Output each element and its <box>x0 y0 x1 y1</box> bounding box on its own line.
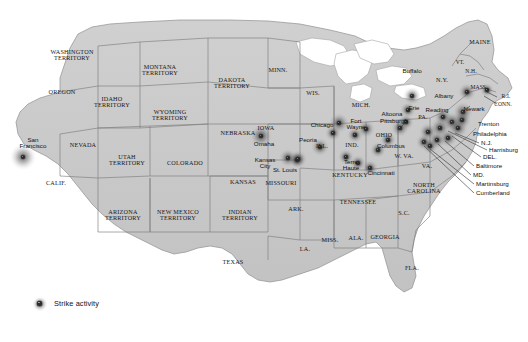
landmass <box>16 20 512 292</box>
map-geometry <box>0 0 528 342</box>
strike-activity-marker-icon <box>32 296 47 311</box>
map-legend: Strike activity <box>32 296 99 311</box>
strike-activity-map: WASHINGTON TERRITORYOREGONIDAHO TERRITOR… <box>0 0 528 342</box>
legend-label: Strike activity <box>54 299 99 308</box>
